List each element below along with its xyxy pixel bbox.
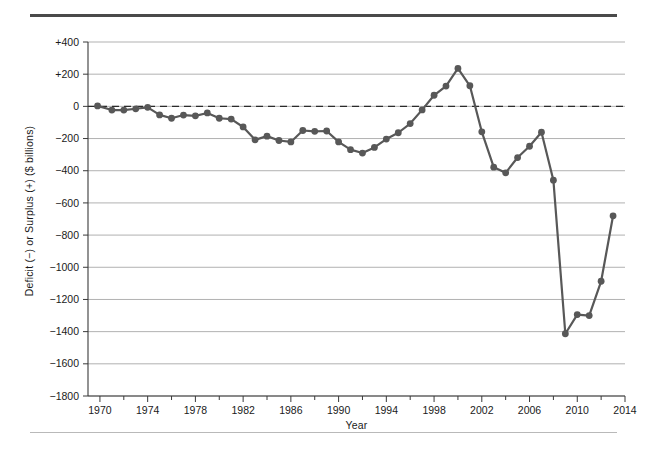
data-point-marker — [299, 127, 306, 134]
data-point-marker — [276, 137, 283, 144]
data-point-marker — [502, 169, 509, 176]
x-tick-label: 1974 — [136, 404, 160, 416]
data-point-marker — [490, 164, 497, 171]
data-point-marker — [180, 112, 187, 119]
data-point-marker — [478, 128, 485, 135]
data-point-marker — [132, 105, 139, 112]
data-point-marker — [108, 107, 115, 114]
data-point-marker — [574, 311, 581, 318]
x-tick-label: 2014 — [613, 404, 637, 416]
data-point-marker — [144, 104, 151, 111]
y-tick-labels-group: +400+2000−200−400−600−800−1000−1200−1400… — [50, 36, 80, 402]
data-point-marker — [383, 136, 390, 143]
y-axis-title: Deficit (−) or Surplus (+) ($ billions) — [23, 96, 35, 326]
x-tick-label: 2002 — [470, 404, 494, 416]
x-tick-labels-group: 1970197419781982198619901994199820022006… — [88, 404, 637, 416]
y-tick-label: +400 — [55, 36, 79, 48]
x-tick-label: 1998 — [422, 404, 446, 416]
data-point-marker — [204, 110, 211, 117]
data-point-marker — [395, 129, 402, 136]
y-tick-label: −600 — [55, 197, 79, 209]
data-point-marker — [216, 115, 223, 122]
data-point-marker — [598, 278, 605, 285]
data-point-marker — [192, 112, 199, 119]
data-point-marker — [538, 129, 545, 136]
y-tick-label: +200 — [55, 68, 79, 80]
x-tick-label: 2006 — [518, 404, 542, 416]
data-series-line — [98, 68, 614, 333]
data-point-marker — [419, 107, 426, 114]
x-tick-marks-group — [100, 396, 625, 402]
y-tick-label: −400 — [55, 164, 79, 176]
data-point-marker — [335, 139, 342, 146]
data-point-marker — [371, 144, 378, 151]
data-point-marker — [240, 124, 247, 131]
axis-lines-group — [88, 42, 625, 396]
y-tick-label: −200 — [55, 132, 79, 144]
data-point-marker — [407, 120, 414, 127]
x-axis-title: Year — [88, 419, 625, 431]
y-tick-label: −1200 — [50, 293, 80, 305]
x-tick-label: 1986 — [279, 404, 303, 416]
gridlines-group — [88, 42, 625, 396]
y-tick-label: −800 — [55, 229, 79, 241]
data-point-marker — [443, 83, 450, 90]
x-tick-label: 1970 — [88, 404, 112, 416]
y-tick-label: 0 — [73, 100, 79, 112]
y-tick-label: −1800 — [50, 390, 80, 402]
y-tick-label: −1000 — [50, 261, 80, 273]
data-point-marker — [514, 154, 521, 161]
x-tick-label: 1982 — [231, 404, 255, 416]
data-point-marker — [94, 102, 101, 109]
data-point-marker — [431, 92, 438, 99]
data-point-marker — [156, 111, 163, 118]
y-tick-label: −1400 — [50, 325, 80, 337]
data-point-marker — [120, 107, 127, 114]
data-point-marker — [562, 330, 569, 337]
data-point-marker — [287, 139, 294, 146]
data-point-marker — [526, 143, 533, 150]
data-point-marker — [359, 150, 366, 157]
y-tick-label: −1600 — [50, 357, 80, 369]
data-point-marker — [252, 136, 259, 143]
data-point-marker — [586, 312, 593, 319]
y-tick-marks-group — [83, 42, 88, 396]
data-point-marker — [168, 115, 175, 122]
data-point-marker — [610, 212, 617, 219]
figure-container: +400+2000−200−400−600−800−1000−1200−1400… — [0, 0, 647, 449]
x-tick-label: 1990 — [327, 404, 351, 416]
x-tick-label: 2010 — [566, 404, 590, 416]
data-point-marker — [311, 128, 318, 135]
data-point-marker — [466, 82, 473, 89]
series-polyline — [98, 68, 614, 333]
data-point-marker — [550, 177, 557, 184]
x-tick-label: 1978 — [184, 404, 208, 416]
x-tick-label: 1994 — [375, 404, 399, 416]
data-point-marker — [347, 146, 354, 153]
data-point-marker — [323, 128, 330, 135]
deficit-surplus-line-chart: +400+2000−200−400−600−800−1000−1200−1400… — [0, 0, 647, 449]
data-point-marker — [455, 65, 462, 72]
data-point-marker — [264, 133, 271, 140]
data-point-marker — [228, 116, 235, 123]
